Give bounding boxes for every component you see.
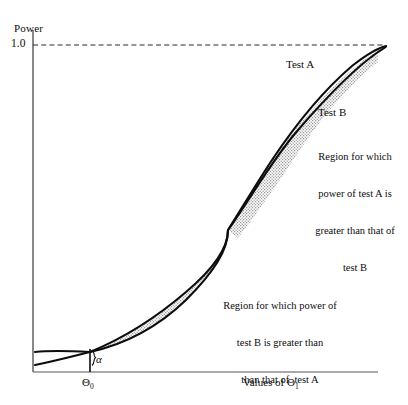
annotation-lower-line-2: test B is greater than [218,337,342,349]
annotation-upper-line-2: power of test A is [303,188,407,200]
annotation-upper-line-3: greater than that of [303,225,407,237]
y-axis-title: Power [14,22,43,35]
curve-label-test-b: Test B [318,106,346,119]
theta0-subscript: 0 [90,382,94,391]
x-axis-title-subscript: 1 [295,382,299,391]
annotation-upper-region: Region for which power of test A is grea… [303,126,407,299]
x-axis-title-symbol: Θ [287,376,295,388]
shaded-region-lower [90,230,228,352]
x-axis-title: Values of Θ1 [243,376,299,392]
alpha-label: α [96,353,102,366]
theta0-symbol: Θ [82,376,90,388]
theta0-label: Θ0 [82,376,94,392]
annotation-lower-line-1: Region for which power of [218,300,342,312]
y-axis-tick-label: 1.0 [11,37,25,51]
annotation-upper-line-1: Region for which [303,151,407,163]
power-curve-figure: Power 1.0 Test A Test B Region for which… [0,0,408,405]
curve-label-test-a: Test A [286,58,314,71]
annotation-upper-line-4: test B [303,262,407,274]
x-axis-title-prefix: Values of [243,376,287,388]
